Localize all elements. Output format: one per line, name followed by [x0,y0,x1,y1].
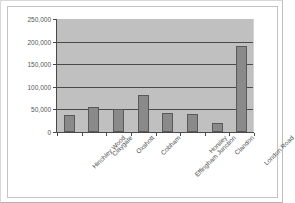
bars-layer [57,19,254,132]
x-axis-category-labels: Hinchley WoodClaygateOxshottCobhamEffing… [57,134,254,194]
bar [113,109,124,132]
x-axis-tick-mark [180,133,181,136]
y-axis-tick-mark [53,64,56,65]
bar [162,113,173,132]
x-axis-category-label: Oxshott [134,134,156,156]
x-axis-tick-mark [229,133,230,136]
x-axis-category-label: Cobham [159,134,182,157]
y-axis-tick-label: 100,000 [28,84,52,91]
y-axis-tick-mark [53,132,56,133]
x-axis-tick-mark [106,133,107,136]
y-axis-tick-label: 250,000 [28,16,52,23]
x-axis-tick-mark [131,133,132,136]
y-axis-tick-mark [53,19,56,20]
y-axis-tick-mark [53,42,56,43]
bar-chart: 050,000100,000150,000200,000250,000 Hinc… [0,0,283,203]
x-axis-tick-mark [205,133,206,136]
x-axis-category-label: London Road [262,134,283,167]
y-axis-tick-label: 150,000 [28,61,52,68]
x-axis-tick-mark [57,133,58,136]
bar [212,123,223,132]
y-axis-tick-label: 50,000 [31,106,51,113]
x-axis-tick-mark [156,133,157,136]
x-axis-tick-mark [82,133,83,136]
x-axis-tick-mark [254,133,255,136]
x-axis-line [56,132,254,133]
y-axis-tick-labels: 050,000100,000150,000200,000250,000 [0,0,51,203]
bar [64,115,75,132]
y-axis-tick-mark [53,109,56,110]
y-axis-tick-label: 200,000 [28,39,52,46]
y-axis-tick-label: 0 [47,129,51,136]
bar [236,46,247,132]
y-axis-tick-mark [53,87,56,88]
bar [138,95,149,132]
bar [187,114,198,132]
bar [88,107,99,132]
